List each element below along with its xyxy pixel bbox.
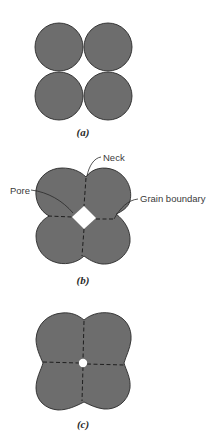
panel-label-b: (b): [77, 274, 90, 287]
grain-boundary-callout: Grain boundary: [140, 193, 206, 204]
particle: [35, 72, 83, 120]
pore-callout: Pore: [10, 185, 30, 196]
neck-callout: Neck: [103, 152, 125, 163]
panel-b: Neck Pore Grain boundary (b): [10, 152, 206, 287]
panel-label-c: (c): [77, 418, 89, 431]
particle: [84, 72, 132, 120]
panel-c: (c): [36, 313, 131, 431]
panel-a: (a): [35, 23, 132, 139]
sintering-diagram: (a) Neck Pore Grain boundary (b) (c): [0, 0, 213, 437]
panel-label-a: (a): [77, 126, 90, 139]
particle: [35, 23, 83, 71]
residual-pore: [79, 359, 87, 367]
particle: [84, 23, 132, 71]
